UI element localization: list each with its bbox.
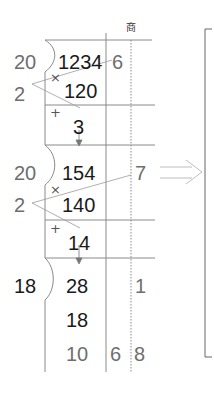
divisor-3: 18 xyxy=(14,275,36,297)
final-remainder: 10 xyxy=(66,343,88,365)
multiplier-1: 2 xyxy=(14,83,25,105)
arrow-down-icon xyxy=(76,258,82,264)
double-arrow-icon xyxy=(160,160,202,184)
quotient-digit-2: 7 xyxy=(135,162,146,184)
dividend-3: 28 xyxy=(66,275,88,297)
product-3: 18 xyxy=(66,309,88,331)
remainder-2: 14 xyxy=(68,232,90,254)
product-1: 120 xyxy=(64,80,97,102)
plus-icon: + xyxy=(50,105,61,120)
plus-icon: + xyxy=(50,221,61,236)
multiplier-2: 2 xyxy=(14,194,25,216)
dividend-2: 154 xyxy=(62,162,95,184)
quotient-digit-1: 6 xyxy=(112,51,123,73)
dividend-1: 1234 xyxy=(58,51,103,73)
remainder-1: 3 xyxy=(73,116,84,138)
final-quotient-right: 8 xyxy=(134,343,145,365)
final-quotient-left: 6 xyxy=(110,343,121,365)
division-bracket-3 xyxy=(45,258,53,372)
times-icon: × xyxy=(50,70,61,85)
divisor-1: 20 xyxy=(14,51,36,73)
division-diagram: 商 20 2 1234 6 × 120 + 3 20 2 154 7 × 14 xyxy=(0,0,214,393)
product-2: 140 xyxy=(62,194,95,216)
quotient-header: 商 xyxy=(126,21,136,33)
division-bracket-2 xyxy=(45,145,55,258)
times-icon: × xyxy=(50,182,61,197)
quotient-digit-3: 1 xyxy=(135,275,146,297)
result-panel-bracket xyxy=(205,29,212,357)
divisor-2: 20 xyxy=(14,162,36,184)
